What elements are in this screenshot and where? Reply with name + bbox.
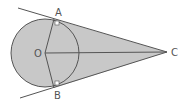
label-o: O — [34, 48, 42, 59]
label-b: B — [54, 90, 61, 101]
right-angle-mark-a — [55, 21, 59, 25]
right-angle-mark-b — [55, 81, 59, 85]
label-a: A — [55, 7, 62, 18]
label-c: C — [171, 47, 178, 58]
geometry-diagram: A O B C — [0, 0, 188, 106]
